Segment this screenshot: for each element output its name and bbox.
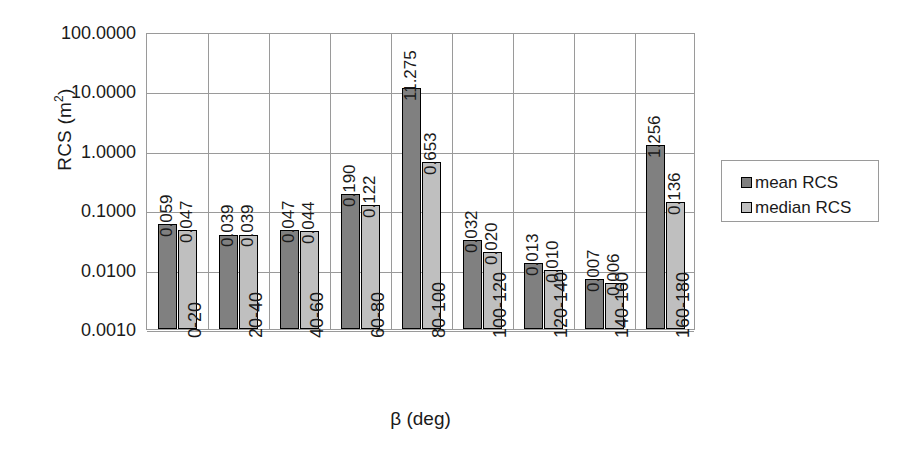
gridline-vertical xyxy=(269,34,270,329)
bar-value-label: 0.047 xyxy=(280,200,297,243)
bar-value-label: 1.256 xyxy=(646,115,663,158)
legend-entry[interactable]: mean RCS xyxy=(741,174,838,191)
chart-legend: mean RCSmedian RCS xyxy=(721,160,879,222)
bar-mean-rcs xyxy=(646,145,665,329)
x-axis-tick-label: 0-20 xyxy=(186,302,204,338)
bar-value-label: 0.044 xyxy=(300,202,317,245)
bar-mean-rcs xyxy=(463,240,482,329)
bar-value-label: 0.059 xyxy=(158,194,175,237)
y-axis-tick-label: 100.0000 xyxy=(42,24,136,42)
bar-value-label: 0.020 xyxy=(483,222,500,265)
x-axis-tick-label: 80-100 xyxy=(430,282,448,338)
y-axis-title: RCS (m2) xyxy=(52,60,75,200)
gridline-vertical xyxy=(513,34,514,329)
bar-value-label: 0.039 xyxy=(219,205,236,248)
bar-value-label: 0.039 xyxy=(239,205,256,248)
x-axis-tick-label: 20-40 xyxy=(247,292,265,338)
bar-mean-rcs xyxy=(280,230,299,329)
bar-value-label: 0.007 xyxy=(585,249,602,292)
bar-mean-rcs xyxy=(158,224,177,329)
x-axis-title: β (deg) xyxy=(146,408,695,430)
gridline-vertical xyxy=(391,34,392,329)
bar-value-label: 0.047 xyxy=(178,200,195,243)
x-axis-tick-label: 120-140 xyxy=(552,272,570,338)
x-axis-tick-label: 60-80 xyxy=(369,292,387,338)
y-axis-tick-label: 1.0000 xyxy=(42,143,136,161)
gridline-vertical xyxy=(635,34,636,329)
bar-value-label: 0.190 xyxy=(341,164,358,207)
bar-value-label: 0.653 xyxy=(422,132,439,175)
gridline-vertical xyxy=(330,34,331,329)
x-axis-tick-label: 140-160 xyxy=(613,272,631,338)
legend-entry-label: median RCS xyxy=(755,199,851,216)
y-axis-tick-label: 0.1000 xyxy=(42,202,136,220)
x-axis-tick-label: 40-60 xyxy=(308,292,326,338)
bar-value-label: 0.122 xyxy=(361,176,378,219)
bar-value-label: 11.275 xyxy=(402,51,419,102)
y-axis-tick-label: 0.0010 xyxy=(42,321,136,339)
legend-swatch-icon xyxy=(741,202,752,213)
bar-value-label: 0.013 xyxy=(524,233,541,276)
legend-swatch-icon xyxy=(741,177,752,188)
y-axis-tick-label: 10.0000 xyxy=(42,83,136,101)
bar-value-label: 0.136 xyxy=(666,173,683,216)
gridline-vertical xyxy=(208,34,209,329)
gridline-vertical xyxy=(574,34,575,329)
y-axis-tick-label: 0.0100 xyxy=(42,262,136,280)
gridline-vertical xyxy=(452,34,453,329)
bar-value-label: 0.032 xyxy=(463,210,480,253)
bar-mean-rcs xyxy=(402,88,421,329)
bar-mean-rcs xyxy=(219,235,238,330)
legend-entry-label: mean RCS xyxy=(755,174,838,191)
legend-entry[interactable]: median RCS xyxy=(741,199,851,216)
bar-mean-rcs xyxy=(341,194,360,329)
x-axis-tick-label: 160-180 xyxy=(674,272,692,338)
x-axis-tick-label: 100-120 xyxy=(491,272,509,338)
chart-container: RCS (m2) 100.000010.00001.00000.10000.01… xyxy=(0,0,914,459)
